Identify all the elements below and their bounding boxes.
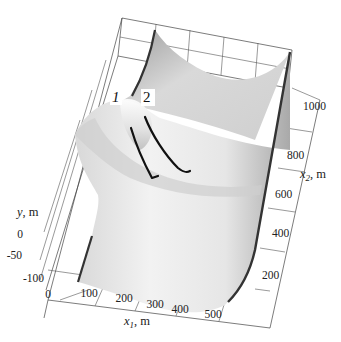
svg-text:800: 800 (287, 149, 305, 161)
svg-text:1000: 1000 (303, 100, 326, 112)
svg-text:300: 300 (146, 298, 164, 310)
svg-text:-100: -100 (23, 272, 44, 284)
svg-text:1: 1 (112, 89, 120, 105)
svg-text:400: 400 (171, 303, 189, 315)
svg-text:-50: -50 (7, 249, 23, 261)
svg-text:0: 0 (17, 228, 23, 240)
svg-text:200: 200 (262, 269, 280, 281)
annotation-2: 2 (141, 89, 155, 106)
x2-axis: 200 400 600 800 1000 x2, m (262, 100, 326, 281)
svg-text:0: 0 (45, 288, 51, 300)
svg-text:2: 2 (143, 89, 151, 105)
svg-text:200: 200 (115, 292, 133, 304)
svg-text:500: 500 (204, 308, 222, 320)
svg-text:y, m: y, m (15, 205, 39, 219)
surface-plot: 1 2 y, m 0 -50 -100 0 100 200 300 400 50… (0, 0, 341, 342)
svg-text:x2, m: x2, m (299, 167, 326, 183)
svg-text:x1, m: x1, m (123, 314, 150, 330)
y-axis: y, m 0 -50 -100 (7, 205, 45, 284)
svg-text:400: 400 (272, 227, 290, 239)
svg-text:100: 100 (80, 287, 98, 299)
annotation-1: 1 (110, 89, 122, 105)
svg-text:600: 600 (275, 188, 293, 200)
